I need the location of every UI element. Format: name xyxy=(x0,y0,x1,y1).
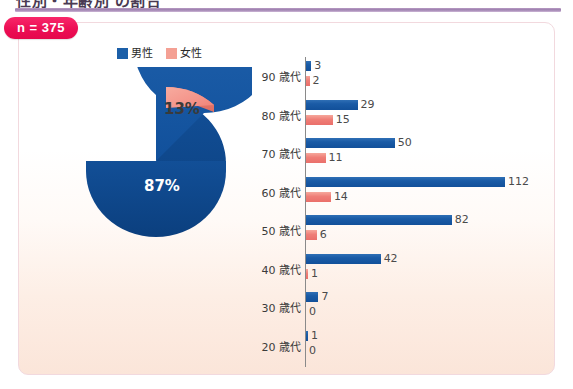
legend-label-male: 男性 xyxy=(131,48,153,59)
square-swatch-icon-male xyxy=(117,48,128,59)
bar-value-label-female: 0 xyxy=(309,305,316,318)
square-swatch-icon-female xyxy=(166,48,177,59)
bar-category-label: 50 歳代 xyxy=(249,222,301,238)
bar-male-40歳代[interactable] xyxy=(306,254,381,264)
legend-item-female[interactable]: 女性 xyxy=(166,48,202,59)
bar-value-label-male: 1 xyxy=(311,329,318,342)
bar-male-90歳代[interactable] xyxy=(306,61,311,71)
bar-group-30歳代: 30 歳代70 xyxy=(249,290,549,324)
bar-value-label-male: 82 xyxy=(455,213,469,226)
bar-value-label-female: 1 xyxy=(311,267,318,280)
pie-svg xyxy=(67,67,252,247)
bar-category-label: 30 歳代 xyxy=(249,299,301,315)
bar-group-20歳代: 20 歳代10 xyxy=(249,329,549,363)
bar-category-label: 80 歳代 xyxy=(249,107,301,123)
bar-value-label-male: 29 xyxy=(361,98,375,111)
bar-value-label-female: 11 xyxy=(329,151,343,164)
bar-category-label: 40 歳代 xyxy=(249,261,301,277)
bar-group-60歳代: 60 歳代11214 xyxy=(249,175,549,209)
bar-group-70歳代: 70 歳代5011 xyxy=(249,136,549,170)
bar-value-label-male: 50 xyxy=(398,136,412,149)
legend-item-male[interactable]: 男性 xyxy=(117,48,153,59)
bar-value-label-male: 7 xyxy=(321,290,328,303)
bar-group-40歳代: 40 歳代421 xyxy=(249,252,549,286)
gender-pie-chart: 87% 13% xyxy=(67,67,252,247)
bar-female-40歳代[interactable] xyxy=(306,269,308,279)
bar-female-80歳代[interactable] xyxy=(306,115,333,125)
bar-male-30歳代[interactable] xyxy=(306,292,318,302)
chart-panel: 男性 女性 xyxy=(18,22,555,375)
bar-value-label-female: 0 xyxy=(309,344,316,357)
bar-male-50歳代[interactable] xyxy=(306,215,452,225)
bar-value-label-male: 42 xyxy=(384,252,398,265)
bar-male-20歳代[interactable] xyxy=(306,331,308,341)
bar-value-label-female: 6 xyxy=(320,228,327,241)
age-bar-chart: 90 歳代3280 歳代291570 歳代501160 歳代1121450 歳代… xyxy=(249,53,549,371)
bar-male-80歳代[interactable] xyxy=(306,100,358,110)
pie-slice-male-side xyxy=(86,161,226,237)
legend-label-female: 女性 xyxy=(180,48,202,59)
bar-category-label: 90 歳代 xyxy=(249,68,301,84)
bar-value-label-female: 2 xyxy=(313,74,320,87)
bar-category-label: 70 歳代 xyxy=(249,145,301,161)
bar-male-70歳代[interactable] xyxy=(306,138,395,148)
bar-category-label: 20 歳代 xyxy=(249,338,301,354)
bar-group-90歳代: 90 歳代32 xyxy=(249,59,549,93)
sample-size-badge: n = 375 xyxy=(4,17,78,39)
bar-group-50歳代: 50 歳代826 xyxy=(249,213,549,247)
bar-female-60歳代[interactable] xyxy=(306,192,331,202)
bar-male-60歳代[interactable] xyxy=(306,177,505,187)
bar-value-label-female: 14 xyxy=(334,190,348,203)
header-divider-rule xyxy=(15,8,561,12)
chart-legend: 男性 女性 xyxy=(117,48,202,59)
bar-female-70歳代[interactable] xyxy=(306,153,326,163)
bar-value-label-female: 15 xyxy=(336,113,350,126)
bar-value-label-male: 112 xyxy=(508,175,529,188)
bar-female-90歳代[interactable] xyxy=(306,76,310,86)
bar-category-label: 60 歳代 xyxy=(249,184,301,200)
bar-female-50歳代[interactable] xyxy=(306,230,317,240)
bar-group-80歳代: 80 歳代2915 xyxy=(249,98,549,132)
bar-value-label-male: 3 xyxy=(314,59,321,72)
